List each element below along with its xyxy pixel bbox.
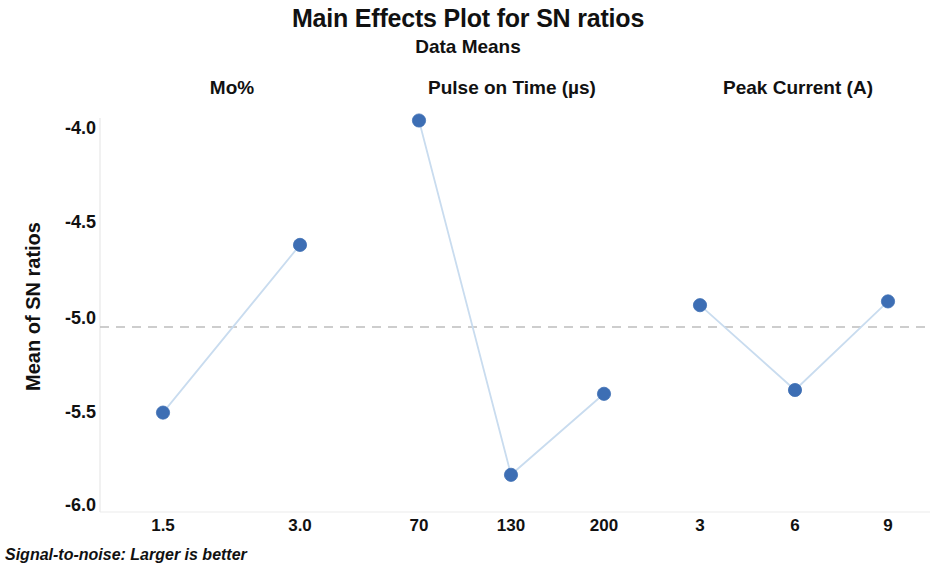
y-tick-label: -4.5 (65, 212, 96, 233)
plot-area: Mo% Pulse on Time (µs) Peak Current (A) … (0, 0, 936, 579)
panel-header-mo-percent: Mo% (210, 77, 254, 99)
x-tick-label: 3 (695, 516, 704, 536)
data-point (504, 468, 517, 481)
x-tick-label: 1.5 (151, 516, 175, 536)
x-tick-label: 6 (790, 516, 799, 536)
panel-header-peak-current: Peak Current (A) (723, 77, 873, 99)
y-tick-label: -5.5 (65, 402, 96, 423)
data-point (412, 114, 425, 127)
y-tick-label: -5.0 (65, 308, 96, 329)
x-tick-label: 9 (883, 516, 892, 536)
x-tick-label: 200 (590, 516, 618, 536)
data-point (597, 387, 610, 400)
panel-header-pulse-on-time: Pulse on Time (µs) (428, 77, 596, 99)
x-tick-label: 3.0 (288, 516, 312, 536)
series-line-panel-1 (419, 121, 604, 475)
y-tick-label: -4.0 (65, 118, 96, 139)
footnote-signal-to-noise: Signal-to-noise: Larger is better (5, 546, 247, 564)
data-point (881, 295, 894, 308)
y-tick-label: -6.0 (65, 495, 96, 516)
x-tick-label: 130 (497, 516, 525, 536)
data-point (788, 383, 801, 396)
data-point (693, 299, 706, 312)
data-point (156, 406, 169, 419)
series-line-panel-2 (700, 301, 888, 390)
data-point (293, 238, 306, 251)
x-tick-label: 70 (410, 516, 429, 536)
series-line-panel-0 (163, 245, 300, 413)
